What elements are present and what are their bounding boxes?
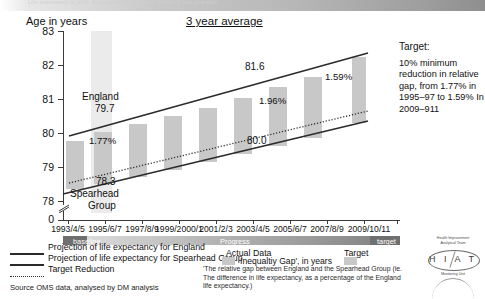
y-tick-label: 81 <box>32 93 54 105</box>
target-reduction-line <box>69 111 368 183</box>
legend-label-spearhead: Projection of life expectancy for Spearh… <box>48 253 243 263</box>
annotation-gap-target: 1.59% <box>325 71 352 82</box>
annotation-gap-2007: 1.96% <box>259 95 286 106</box>
annotation-england-value: 79.7 <box>95 103 114 114</box>
solid-line-icon <box>10 253 44 255</box>
dotted-line-icon <box>10 276 44 277</box>
logo-arc <box>432 278 474 299</box>
y-tick-label: 80 <box>32 127 54 139</box>
y-tick-label: 82 <box>32 59 54 71</box>
chart-title: 3 year average <box>186 15 263 27</box>
logo-bottom-text: Monitoring Unit <box>424 272 482 277</box>
logo-top-line1: Health Improvement <box>424 236 482 241</box>
legend-label-england: Projection of life expectancy for Englan… <box>48 242 205 252</box>
annotation-spearhead-2: Group <box>88 200 116 211</box>
source-note: Source OMS data, analysed by DM analysis <box>10 283 159 292</box>
legend-swatch-inequality-gap <box>222 257 235 265</box>
logo-top-line2: Analytical Team <box>424 241 482 246</box>
x-tick-label: 2009/10/11 <box>330 224 408 234</box>
x-axis-line <box>63 220 400 221</box>
annotation-england-2009: 81.6 <box>245 61 264 72</box>
progress-strip-progress-label: Progress <box>220 237 250 246</box>
annotation-gap-1995: 1.77% <box>89 135 116 146</box>
footnote-text: 'The relative gap between England and th… <box>203 265 408 291</box>
target-callout-title: Target: <box>399 41 430 52</box>
annotation-spearhead-2009: 80.0 <box>247 135 266 146</box>
solid-line-icon <box>10 264 44 266</box>
annotation-spearhead: Spearhead <box>70 188 119 199</box>
header-banner-text: Life expectancy at birth, England and Sp… <box>0 0 485 4</box>
plot-area: England 79.7 1.77% 78.3 Spearhead Group … <box>63 31 397 213</box>
y-tick-label: 79 <box>32 161 54 173</box>
progress-strip-target-label: target <box>377 237 396 246</box>
annotation-spearhead-value: 78.3 <box>96 176 115 187</box>
y-tick-label: 83 <box>32 25 54 37</box>
hiat-logo: Health Improvement Analytical Team H I A… <box>424 236 482 294</box>
target-callout-body: 10% minimum reduction in relative gap, f… <box>399 58 485 115</box>
annotation-england: England <box>82 91 119 102</box>
legend-label-target-reduction: Target Reduction <box>48 264 115 274</box>
y-tick-label: 78 <box>32 195 54 207</box>
legend-swatch-target <box>344 257 357 265</box>
y-tick-mark <box>58 220 63 221</box>
